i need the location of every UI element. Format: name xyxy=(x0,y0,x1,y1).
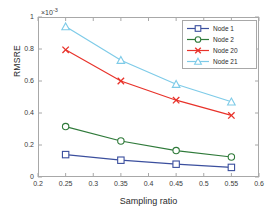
x-tick-label: 0.45 xyxy=(163,180,189,187)
x-axis-label: Sampling ratio xyxy=(38,196,259,206)
legend-item-label: Node 21 xyxy=(213,58,238,65)
legend-item[interactable]: Node 20 xyxy=(183,45,256,56)
legend-item[interactable]: Node 21 xyxy=(183,56,256,67)
figure: ×10-3 00.20.40.60.81 0.20.250.30.350.40.… xyxy=(0,0,277,216)
legend-item[interactable]: Node 1 xyxy=(183,23,256,34)
legend[interactable]: Node 1 Node 2 Node 20 Node 21 xyxy=(182,20,257,69)
x-tick-label: 0.5 xyxy=(191,180,217,187)
y-tick-label: 1 xyxy=(10,13,34,20)
x-tick-label: 0.25 xyxy=(53,180,79,187)
x-tick-label: 0.3 xyxy=(80,180,106,187)
y-tick-label: 0.2 xyxy=(10,141,34,148)
x-tick-label: 0.35 xyxy=(108,180,134,187)
legend-item-label: Node 2 xyxy=(213,36,234,43)
y-axis-label: RMSRE xyxy=(12,31,22,91)
x-tick-label: 0.2 xyxy=(25,180,51,187)
x-tick-label: 0.55 xyxy=(218,180,244,187)
legend-item[interactable]: Node 2 xyxy=(183,34,256,45)
legend-marker-triangle-icon xyxy=(186,56,210,67)
legend-marker-square-icon xyxy=(186,23,210,34)
x-tick-label: 0.4 xyxy=(136,180,162,187)
legend-marker-cross-icon xyxy=(186,45,210,56)
legend-item-label: Node 20 xyxy=(213,47,238,54)
legend-item-label: Node 1 xyxy=(213,25,234,32)
y-tick-label: 0.4 xyxy=(10,109,34,116)
x-tick-label: 0.6 xyxy=(246,180,272,187)
y-tick-label: 0 xyxy=(10,173,34,180)
legend-marker-circle-icon xyxy=(186,34,210,45)
